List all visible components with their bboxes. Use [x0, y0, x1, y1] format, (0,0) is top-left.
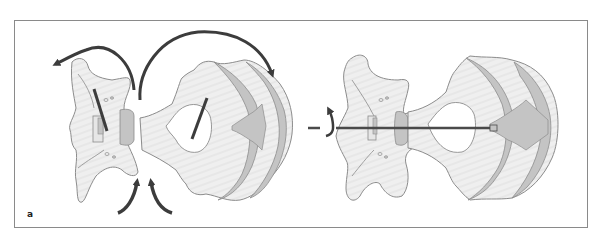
- vertebral-body-left: [140, 60, 293, 200]
- panel-label: a: [27, 209, 33, 219]
- push-arrow-right: [151, 182, 172, 213]
- facet-left: [120, 109, 134, 145]
- anatomy-diagram: [0, 0, 599, 241]
- posterior-element-left: [70, 59, 138, 203]
- axis-rotation-arrow: [326, 110, 333, 136]
- push-arrow-left: [118, 182, 137, 213]
